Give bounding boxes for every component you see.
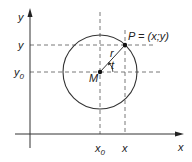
center-point-M (98, 70, 102, 74)
x-axis-label: x (177, 141, 184, 153)
angle-label: t (111, 59, 115, 71)
center-label-M: M (89, 72, 99, 84)
point-label-P: P = (x;y) (128, 30, 169, 42)
y0-tick-label: y0 (13, 66, 25, 81)
y-axis-label: y (17, 11, 25, 23)
x0-tick-label: x0 (94, 142, 106, 157)
y-tick-label: y (17, 39, 25, 51)
x-tick-label: x (121, 142, 128, 154)
y-axis-arrow-icon (28, 8, 33, 17)
circle-coordinate-diagram: y x y y0 x0 x M P = (x;y) r t (0, 0, 192, 162)
point-P (123, 43, 127, 47)
diagram-canvas: y x y y0 x0 x M P = (x;y) r t (0, 0, 192, 162)
x-axis-arrow-icon (175, 132, 184, 137)
